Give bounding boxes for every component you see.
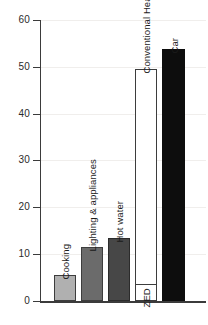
y-tick-label-30: 30: [0, 155, 30, 165]
bar-conventional-heating: [135, 69, 157, 301]
y-tick-30: [33, 160, 40, 161]
y-tick-label-10: 10: [0, 249, 30, 259]
bar-label-lighting-appliances: Lighting & appliances: [88, 159, 98, 251]
y-tick-label-60: 60: [0, 15, 30, 25]
plot-area: 60 50 40 30 20 10 0 Cooking Lighting & a…: [0, 0, 208, 325]
bar-lighting-appliances: [81, 247, 103, 301]
bar-label-car: Car: [169, 38, 179, 54]
y-axis-line: [40, 20, 41, 302]
bar-label-hot-water: Hot water: [115, 201, 125, 243]
gridline-60: [41, 20, 206, 21]
bar-car: [162, 49, 185, 301]
y-tick-label-0: 0: [0, 296, 30, 306]
bar-chart: 60 50 40 30 20 10 0 Cooking Lighting & a…: [0, 0, 208, 325]
y-tick-label-20: 20: [0, 202, 30, 212]
y-tick-40: [33, 114, 40, 115]
x-axis-line: [40, 301, 206, 303]
bar-label-cooking: Cooking: [61, 244, 71, 280]
bar-label-zed: ZED: [142, 288, 152, 307]
y-tick-20: [33, 207, 40, 208]
y-tick-label-50: 50: [0, 62, 30, 72]
y-tick-label-40: 40: [0, 109, 30, 119]
y-tick-10: [33, 254, 40, 255]
bar-label-conventional-heating: Conventional Heating: [142, 0, 152, 74]
y-tick-50: [33, 67, 40, 68]
y-tick-60: [33, 20, 40, 21]
bar-hot-water: [108, 238, 130, 301]
y-tick-0: [33, 301, 40, 302]
